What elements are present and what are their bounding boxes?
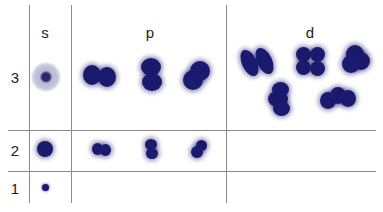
- orbital-3pz: [180, 58, 216, 94]
- row-label-3: 3: [11, 70, 19, 85]
- grid-line-left: [29, 5, 30, 203]
- column-header-d: d: [306, 25, 314, 40]
- row-label-2: 2: [11, 143, 19, 158]
- grid-line-p-d: [226, 5, 227, 203]
- column-header-s: s: [41, 25, 49, 40]
- orbital-1s: [42, 184, 49, 191]
- orbital-3d-5: [318, 84, 358, 114]
- orbital-3s: [31, 62, 61, 92]
- orbital-2pz: [190, 139, 208, 159]
- grid-line-row3-row2: [8, 130, 376, 131]
- orbital-3px: [82, 62, 118, 90]
- orbital-3d-1: [240, 45, 280, 81]
- column-header-p: p: [146, 25, 154, 40]
- orbital-3d-2: [294, 45, 328, 79]
- grid-line-row2-row1: [8, 171, 376, 172]
- orbital-3d-3: [340, 43, 374, 79]
- orbital-3py: [136, 56, 164, 96]
- orbital-2py: [144, 138, 158, 160]
- grid-line-s-p: [71, 5, 72, 203]
- orbital-3d-4: [265, 80, 297, 118]
- row-label-1: 1: [11, 181, 19, 196]
- orbital-2px: [91, 142, 113, 156]
- orbital-2s: [37, 141, 53, 157]
